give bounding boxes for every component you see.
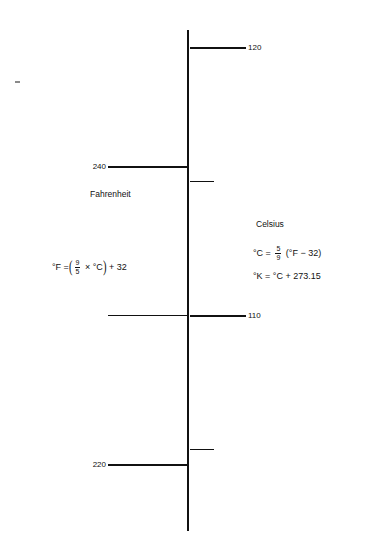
- formula-c-numerator: 5: [275, 245, 281, 253]
- fahrenheit-scale-heading: Fahrenheit: [90, 189, 131, 199]
- formula-f-denominator: 5: [75, 267, 81, 276]
- fahrenheit-major-tick: [108, 166, 188, 168]
- celsius-major-tick: [190, 47, 246, 49]
- celsius-tick-label: 110: [248, 311, 308, 320]
- fraction: 95: [75, 259, 81, 275]
- celsius-tick-label: 120: [248, 43, 308, 52]
- formula-f-open-paren: (: [69, 262, 73, 272]
- scan-artifact-speck: [15, 81, 20, 83]
- fraction: 59: [275, 245, 281, 261]
- formula-c-tail: (°F − 32): [283, 248, 321, 259]
- formula-c-denominator: 9: [275, 253, 281, 262]
- formula-f-close-paren: ): [103, 262, 107, 272]
- formula-k-text: °K = °C + 273.15: [253, 271, 321, 282]
- temperature-scale-diagram: 240220120110212°FWaterboils100°C32°FWate…: [0, 0, 384, 551]
- formula-f-lhs: °F =: [52, 262, 69, 273]
- celsius-scale-heading: Celsius: [256, 219, 284, 229]
- formula-c-lhs: °C =: [253, 248, 271, 259]
- fahrenheit-tick-label: 220: [60, 460, 106, 469]
- fahrenheit-minor-tick: [108, 315, 188, 316]
- fahrenheit-conversion-formula: °F =(95 × °C) + 32: [52, 259, 127, 275]
- fahrenheit-major-tick: [108, 464, 188, 466]
- scale-axis-spine: [187, 30, 189, 531]
- celsius-conversion-formula: °C = 59 (°F − 32): [253, 245, 321, 261]
- formula-f-tail: + 32: [106, 262, 126, 273]
- kelvin-conversion-formula: °K = °C + 273.15: [253, 271, 321, 282]
- formula-f-numerator: 9: [75, 259, 81, 267]
- celsius-minor-tick: [190, 181, 214, 182]
- celsius-major-tick: [190, 315, 246, 317]
- formula-f-middle: × °C: [82, 262, 102, 273]
- fahrenheit-tick-label: 240: [60, 162, 106, 171]
- celsius-minor-tick: [190, 449, 214, 450]
